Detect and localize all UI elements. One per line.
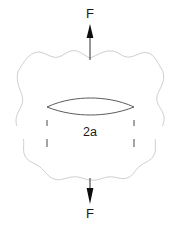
force-arrow-top-head-icon [87, 24, 94, 38]
force-label-top: F [0, 7, 180, 20]
crack-length-label: 2a [0, 126, 180, 139]
crack-diagram-figure: F 2a F [0, 0, 180, 230]
crack-length-value: 2a [79, 125, 101, 139]
force-label-bottom: F [0, 207, 180, 220]
diagram-canvas [0, 0, 180, 230]
force-arrow-bottom-head-icon [87, 188, 94, 204]
